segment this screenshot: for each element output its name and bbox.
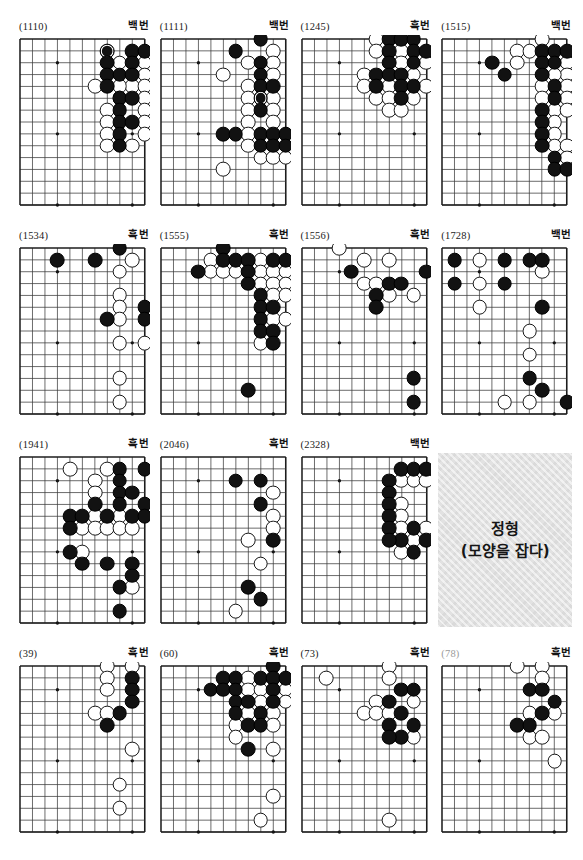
- white-stone: [522, 395, 537, 410]
- black-stone: [112, 604, 127, 619]
- black-stone: [419, 462, 431, 477]
- white-stone: [266, 742, 281, 757]
- white-stone: [406, 288, 421, 303]
- go-board-grid: [438, 662, 572, 836]
- problem-p1515: (1515)백번: [438, 18, 572, 219]
- go-board: [438, 662, 572, 836]
- black-stone: [100, 718, 115, 733]
- black-stone: [63, 521, 78, 536]
- black-stone: [560, 162, 572, 177]
- black-stone: [266, 336, 281, 351]
- problem-number: (1555): [160, 227, 189, 244]
- white-stone: [216, 162, 231, 177]
- go-board-grid: [438, 244, 572, 418]
- go-board: [16, 453, 150, 627]
- black-stone: [75, 509, 90, 524]
- black-stone: [535, 383, 550, 398]
- black-stone: [406, 371, 421, 386]
- section-title-text: 정형 (모양을 잡다): [461, 518, 550, 563]
- problem-header: (1515)백번: [438, 18, 572, 35]
- go-board: [16, 35, 150, 209]
- black-stone: [419, 264, 431, 279]
- white-stone: [547, 754, 562, 769]
- black-stone: [547, 91, 562, 106]
- problem-header: (1110)백번: [16, 18, 150, 35]
- black-stone: [497, 253, 512, 268]
- black-stone: [406, 682, 421, 697]
- turn-indicator: 흑번: [269, 435, 289, 452]
- black-stone: [137, 509, 149, 524]
- problem-number: (1515): [441, 18, 470, 35]
- black-stone: [547, 694, 562, 709]
- black-stone: [266, 79, 281, 94]
- white-stone: [112, 777, 127, 792]
- black-stone: [125, 115, 140, 130]
- go-board: [157, 662, 291, 836]
- turn-indicator: 백번: [269, 17, 289, 34]
- problem-number: (1728): [441, 227, 470, 244]
- black-stone: [253, 35, 268, 46]
- section-title-box: 정형 (모양을 잡다): [438, 453, 572, 627]
- turn-indicator: 흑번: [551, 644, 571, 661]
- white-stone: [253, 813, 268, 828]
- go-board-grid: [16, 244, 150, 418]
- go-board: [16, 662, 150, 836]
- white-stone: [472, 253, 487, 268]
- problem-p60: (60)흑번: [157, 645, 291, 846]
- problem-sheet-page: (1110)백번(1111)백번(1245)흑번(1515)백번(1534)흑번…: [0, 0, 583, 860]
- white-stone: [137, 127, 149, 142]
- black-stone: [394, 706, 409, 721]
- black-stone: [485, 55, 500, 70]
- black-stone: [381, 694, 396, 709]
- black-stone: [547, 55, 562, 70]
- black-stone: [369, 300, 384, 315]
- white-stone: [472, 276, 487, 291]
- problem-header: (73)흑번: [298, 645, 432, 662]
- black-stone: [535, 253, 550, 268]
- go-board: [298, 35, 432, 209]
- go-board: [438, 35, 572, 209]
- go-board: [438, 244, 572, 418]
- black-stone: [394, 91, 409, 106]
- problem-header: (1728)백번: [438, 227, 572, 244]
- white-stone: [560, 103, 572, 118]
- black-stone: [406, 718, 421, 733]
- black-stone: [381, 533, 396, 548]
- problem-header: (78)흑번: [438, 645, 572, 662]
- white-stone: [472, 300, 487, 315]
- turn-indicator: 흑번: [128, 435, 148, 452]
- section-title-panel: 정형 (모양을 잡다): [438, 436, 572, 637]
- turn-indicator: 흑번: [128, 644, 148, 661]
- white-stone: [112, 371, 127, 386]
- white-stone: [535, 730, 550, 745]
- problem-number: (1245): [301, 18, 330, 35]
- black-stone: [125, 67, 140, 82]
- black-stone: [241, 694, 256, 709]
- white-stone: [357, 253, 372, 268]
- black-stone: [266, 300, 281, 315]
- problem-header: (2328)백번: [298, 436, 432, 453]
- black-stone: [447, 253, 462, 268]
- black-stone: [406, 395, 421, 410]
- black-stone: [241, 742, 256, 757]
- black-stone: [112, 497, 127, 512]
- black-stone: [522, 371, 537, 386]
- problem-header: (1941)흑번: [16, 436, 150, 453]
- problem-p39: (39)흑번: [16, 645, 150, 846]
- problem-number: (1556): [301, 227, 330, 244]
- white-stone: [63, 462, 78, 477]
- black-stone: [228, 44, 243, 59]
- problem-number: (78): [441, 645, 459, 662]
- black-stone: [125, 91, 140, 106]
- problem-header: (39)흑번: [16, 645, 150, 662]
- black-stone: [137, 462, 149, 477]
- turn-indicator: 흑번: [269, 226, 289, 243]
- go-board: [298, 244, 432, 418]
- problem-p1111: (1111)백번: [157, 18, 291, 219]
- problem-p1534: (1534)흑번: [16, 227, 150, 428]
- problem-header: (1534)흑번: [16, 227, 150, 244]
- problem-grid: (1110)백번(1111)백번(1245)흑번(1515)백번(1534)흑번…: [16, 18, 572, 846]
- white-stone: [522, 324, 537, 339]
- black-stone: [560, 44, 572, 59]
- white-stone: [125, 138, 140, 153]
